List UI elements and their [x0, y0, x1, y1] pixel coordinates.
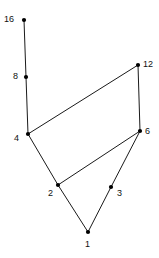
graph-node-1[interactable] [86, 230, 90, 234]
graph-node-label-1: 1 [85, 240, 90, 249]
graph-edge [28, 65, 138, 134]
graph-node-8[interactable] [24, 75, 28, 79]
graph-edge [26, 77, 28, 134]
graph-canvas [0, 0, 159, 258]
graph-node-6[interactable] [138, 129, 142, 133]
graph-node-label-12: 12 [143, 60, 153, 69]
graph-diagram: 1684126231 [0, 0, 159, 258]
graph-edge [28, 134, 58, 185]
graph-node-2[interactable] [56, 183, 60, 187]
graph-node-label-16: 16 [4, 15, 14, 24]
graph-node-16[interactable] [22, 18, 26, 22]
edge-layer [24, 20, 140, 232]
graph-node-label-4: 4 [14, 134, 19, 143]
graph-edge [138, 65, 140, 131]
graph-node-4[interactable] [26, 132, 30, 136]
graph-node-label-8: 8 [13, 72, 18, 81]
graph-edge [111, 131, 140, 187]
graph-node-12[interactable] [136, 63, 140, 67]
graph-edge [58, 131, 140, 185]
graph-node-label-3: 3 [117, 189, 122, 198]
graph-edge [88, 187, 111, 232]
graph-node-label-2: 2 [48, 189, 53, 198]
graph-edge [24, 20, 26, 77]
graph-edge [58, 185, 88, 232]
graph-node-label-6: 6 [145, 127, 150, 136]
graph-node-3[interactable] [109, 185, 113, 189]
